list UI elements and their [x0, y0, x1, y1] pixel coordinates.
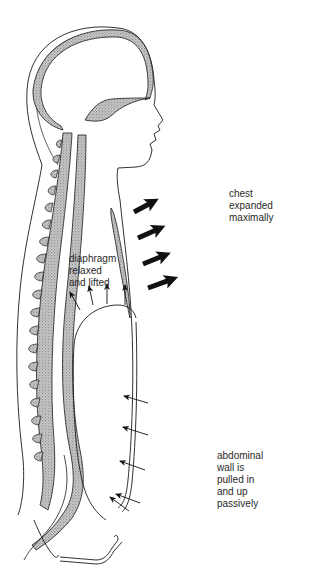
- abdominal-arrows: [110, 396, 148, 511]
- chest-label-line-1: chest: [229, 188, 273, 200]
- abdominal-label-line-5: passively: [217, 498, 263, 510]
- diaphragm-label-line-3: and lifted: [69, 277, 116, 289]
- abdominal-label-line-4: and up: [217, 486, 263, 498]
- thin-arrow-icon: [120, 461, 145, 470]
- bold-arrow-icon: [135, 219, 168, 244]
- chest-expansion-arrows: [131, 193, 181, 295]
- diaphragm-label-line-1: diaphragm: [69, 253, 116, 265]
- bold-arrow-icon: [140, 246, 173, 270]
- thin-arrow-icon: [110, 497, 129, 511]
- diaphragm-label-line-2: relaxed: [69, 265, 116, 277]
- bold-arrow-icon: [146, 270, 181, 294]
- chest-label-line-3: maximally: [229, 212, 273, 224]
- abdominal-label-line-2: wall is: [217, 462, 263, 474]
- abdominal-label-line-1: abdominal: [217, 450, 263, 462]
- abdominal-wall-label: abdominal wall is pulled in and up passi…: [217, 450, 263, 510]
- skull-band: [33, 30, 153, 130]
- abdominal-label-line-3: pulled in: [217, 474, 263, 486]
- chest-label-line-2: expanded: [229, 200, 273, 212]
- thin-arrow-icon: [124, 396, 148, 403]
- bold-arrow-icon: [131, 193, 162, 219]
- diaphragm-label: diaphragm relaxed and lifted: [69, 253, 116, 289]
- chest-label: chest expanded maximally: [229, 188, 273, 224]
